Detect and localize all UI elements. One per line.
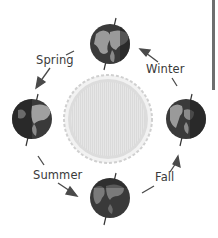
sun-icon: [64, 75, 152, 163]
earth-left-icon: [12, 94, 52, 146]
page-edge-divider: [212, 0, 215, 90]
earth-right-icon: [166, 94, 210, 146]
season-label-fall: Fall: [155, 172, 174, 184]
season-label-summer: Summer: [33, 170, 82, 182]
earth-top-icon: [90, 18, 132, 70]
season-label-spring: Spring: [36, 55, 74, 67]
earth-bottom-icon: [90, 173, 130, 225]
orbit-diagram-svg: [0, 0, 218, 238]
season-label-winter: Winter: [146, 64, 185, 76]
seasons-diagram: Spring Summer Fall Winter: [0, 0, 218, 238]
